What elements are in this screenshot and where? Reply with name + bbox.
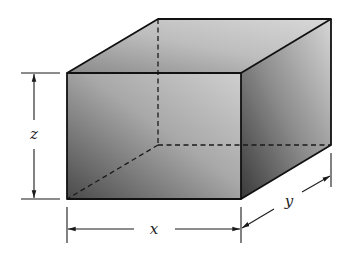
y-label: y: [284, 192, 294, 210]
y-arrow-front: [242, 209, 274, 228]
y-arrow-back: [302, 176, 330, 192]
z-dimension: [21, 73, 60, 199]
front-face: [67, 73, 241, 199]
box-diagram: z x y: [0, 0, 355, 259]
box-faces: [67, 19, 331, 199]
z-label: z: [29, 125, 38, 143]
x-label: x: [150, 220, 159, 238]
